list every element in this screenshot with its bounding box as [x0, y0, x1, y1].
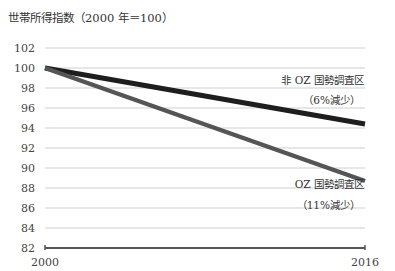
y-tick-label: 96 [21, 102, 35, 115]
y-tick-label: 98 [21, 82, 35, 95]
line-chart: 世帯所得指数（2000 年＝100） 828486889092949698100… [0, 0, 395, 271]
series-note: （6%減少） [303, 94, 360, 106]
y-tick-label: 88 [21, 182, 35, 195]
series-labels: 非 OZ 国勢調査区（6%減少）OZ 国勢調査区（11%減少） [281, 74, 364, 211]
y-tick-label: 94 [21, 122, 35, 135]
chart-title: 世帯所得指数（2000 年＝100） [8, 11, 173, 25]
y-axis-tick-labels: 828486889092949698100102 [14, 42, 35, 255]
series-note: （11%減少） [297, 199, 360, 211]
y-tick-label: 86 [21, 202, 35, 215]
y-tick-label: 84 [21, 222, 35, 235]
y-tick-label: 100 [14, 62, 35, 75]
y-tick-label: 102 [14, 42, 35, 55]
y-tick-label: 82 [21, 242, 35, 255]
y-tick-label: 90 [21, 162, 35, 175]
x-tick-label: 2016 [351, 256, 379, 269]
series-label: 非 OZ 国勢調査区 [281, 74, 364, 86]
series-label: OZ 国勢調査区 [295, 178, 364, 190]
x-axis: 20002016 [31, 245, 379, 269]
y-tick-label: 92 [21, 142, 35, 155]
x-tick-label: 2000 [31, 256, 59, 269]
